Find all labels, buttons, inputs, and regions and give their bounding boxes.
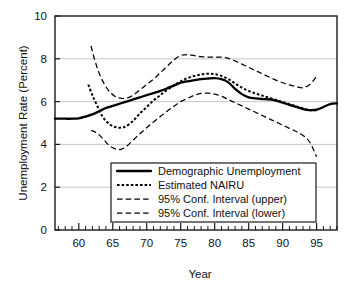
chart-legend: Demographic UnemploymentEstimated NAIRU9…: [111, 163, 316, 222]
x-tick-label-75: 75: [174, 237, 187, 249]
x-tick-label-85: 85: [242, 237, 255, 249]
x-tick-label-70: 70: [140, 237, 153, 249]
y-tick-label-8: 8: [41, 53, 47, 65]
x-tick-label-80: 80: [208, 237, 221, 249]
y-tick-label-4: 4: [41, 138, 48, 150]
y-tick-label-10: 10: [34, 10, 47, 22]
legend-label-2: 95% Conf. Interval (upper): [158, 193, 287, 205]
y-axis-title: Unemployment Rate (Percent): [17, 45, 29, 200]
chart-background: [0, 0, 356, 296]
y-tick-label-6: 6: [41, 96, 47, 108]
x-tick-label-60: 60: [72, 237, 85, 249]
x-tick-label-95: 95: [310, 237, 323, 249]
legend-label-0: Demographic Unemployment: [158, 165, 300, 177]
legend-label-3: 95% Conf. Interval (lower): [158, 207, 285, 219]
legend-label-1: Estimated NAIRU: [158, 179, 244, 191]
unemployment-rate-line-chart: 0246810 6065707580859095 Demographic Une…: [0, 0, 356, 296]
y-tick-label-2: 2: [41, 181, 47, 193]
x-axis-title: Year: [188, 268, 211, 280]
x-tick-label-90: 90: [276, 237, 289, 249]
chart-figure: 0246810 6065707580859095 Demographic Une…: [0, 0, 356, 296]
x-tick-label-65: 65: [106, 237, 119, 249]
y-tick-label-0: 0: [41, 224, 47, 236]
